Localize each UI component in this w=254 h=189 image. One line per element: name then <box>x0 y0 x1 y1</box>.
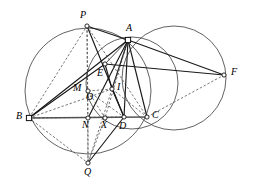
point-label-C: C <box>152 110 159 120</box>
vertex-P[interactable] <box>85 24 89 28</box>
segment-P-A <box>87 26 128 40</box>
segment-B-P <box>29 26 87 118</box>
segment-E-I <box>105 64 112 89</box>
segment-B-E <box>29 64 105 118</box>
segment-B-Q <box>29 118 88 163</box>
segment-I-D <box>112 89 124 117</box>
point-label-B: B <box>16 111 22 121</box>
vertex-D[interactable] <box>122 115 126 119</box>
point-label-F: F <box>231 67 237 77</box>
point-label-O: O <box>86 92 93 102</box>
circle-mid-circle <box>86 37 178 129</box>
point-label-A: A <box>126 23 132 33</box>
point-label-Q: Q <box>84 167 91 177</box>
segment-A-Q <box>88 40 128 163</box>
point-label-E: E <box>97 68 103 78</box>
segment-I-C <box>112 89 147 117</box>
vertex-B[interactable] <box>26 115 31 120</box>
point-label-N: N <box>82 120 89 130</box>
segments-layer <box>29 26 224 163</box>
point-label-D: D <box>119 121 126 131</box>
vertex-Q[interactable] <box>86 161 90 165</box>
vertex-A[interactable] <box>125 37 130 42</box>
segment-B-I <box>29 89 112 118</box>
point-label-P: P <box>80 10 86 20</box>
vertex-E[interactable] <box>103 62 107 66</box>
point-label-I: I <box>117 82 120 92</box>
vertex-F[interactable] <box>222 73 226 77</box>
point-label-X: X <box>101 120 107 130</box>
point-label-M: M <box>73 83 81 93</box>
segment-B-A <box>29 40 128 118</box>
vertex-C[interactable] <box>145 115 149 119</box>
geometry-figure: PAFEMOIBNXDCQ <box>0 0 254 189</box>
vertex-I[interactable] <box>110 87 114 91</box>
